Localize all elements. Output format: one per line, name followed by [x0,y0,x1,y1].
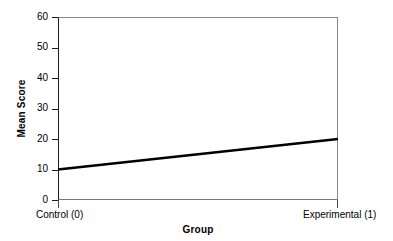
x-tick-mark-experimental [337,200,338,208]
y-tick-label-50: 50 [8,42,48,52]
y-tick-label-10: 10 [8,164,48,174]
chart-figure: Mean Score 60 50 40 30 20 10 0 Control (… [0,0,393,241]
x-tick-mark-control [58,200,59,208]
x-tick-label-experimental: Experimental (1) [303,209,376,221]
y-tick-label-20: 20 [8,134,48,144]
x-axis-title: Group [58,224,338,235]
series-0-polyline [58,139,338,170]
x-tick-label-control: Control (0) [36,209,83,221]
data-series-line [58,17,338,200]
y-tick-label-0: 0 [8,195,48,205]
y-tick-label-60: 60 [8,12,48,22]
y-tick-label-40: 40 [8,73,48,83]
y-tick-label-30: 30 [8,103,48,113]
